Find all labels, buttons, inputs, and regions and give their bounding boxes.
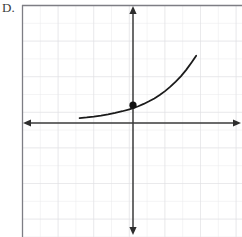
grid-major [22,5,242,237]
y-intercept-point [129,102,136,109]
graph-canvas [0,0,242,237]
figure-container: D. [0,0,242,237]
